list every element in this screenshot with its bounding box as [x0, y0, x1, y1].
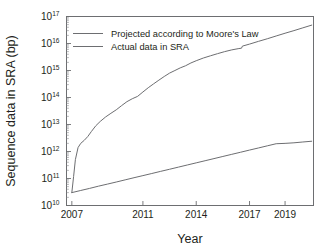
- y-tick-label: 1010: [41, 199, 60, 211]
- x-tick-label: 2017: [238, 209, 261, 220]
- y-tick-label: 1014: [41, 91, 60, 103]
- y-tick-label: 1016: [41, 37, 60, 49]
- chart-canvas: 1010101110121013101410151016101720072011…: [0, 0, 334, 252]
- axes-layer: [67, 17, 314, 206]
- y-tick-label: 1015: [41, 64, 60, 76]
- y-tick-label: 1017: [41, 10, 60, 22]
- x-tick-label: 2011: [132, 209, 154, 220]
- y-axis-title: Sequence data in SRA (bp): [4, 35, 18, 187]
- legend-layer: Projected according to Moore's LawActual…: [73, 29, 259, 52]
- y-tick-label: 1011: [42, 172, 60, 184]
- y-tick-label: 1012: [41, 145, 60, 157]
- x-tick-label: 2014: [185, 209, 208, 220]
- y-tick-label: 1013: [41, 118, 60, 130]
- legend-label-projected: Projected according to Moore's Law: [111, 29, 259, 39]
- series-layer: [72, 25, 312, 193]
- x-tick-label: 2019: [274, 209, 297, 220]
- x-axis-title: Year: [177, 232, 202, 246]
- legend-label-actual: Actual data in SRA: [111, 42, 190, 52]
- series-line-projected: [72, 25, 312, 193]
- plot-frame: [67, 17, 314, 206]
- figure-container: 1010101110121013101410151016101720072011…: [0, 0, 334, 252]
- x-tick-label: 2007: [61, 209, 84, 220]
- series-line-actual: [72, 141, 312, 192]
